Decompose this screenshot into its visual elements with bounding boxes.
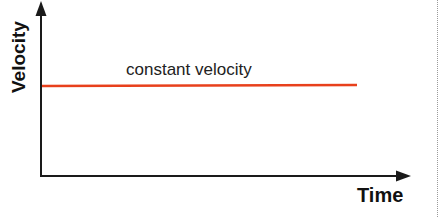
y-axis-label: Velocity (7, 23, 31, 93)
line-label: constant velocity (126, 60, 252, 80)
dotted-border (437, 0, 438, 217)
constant-velocity-line (42, 85, 357, 86)
y-axis-arrow-icon (36, 1, 47, 16)
x-axis-label: Time (357, 184, 403, 207)
x-axis-arrow-icon (396, 171, 411, 182)
